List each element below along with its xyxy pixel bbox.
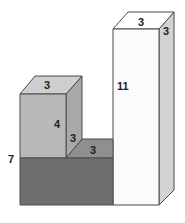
label-left-total-height: 7 — [8, 153, 14, 165]
tall-column-side — [159, 12, 174, 205]
label-tall-side-depth: 3 — [163, 25, 169, 37]
base-front — [20, 158, 113, 205]
tall-column-front — [113, 29, 159, 205]
label-tall-top-width: 3 — [138, 16, 144, 28]
label-small-cube-side-depth: 3 — [70, 132, 76, 144]
label-small-cube-height: 4 — [54, 118, 61, 130]
label-step-top-depth: 3 — [90, 144, 96, 156]
label-small-cube-top-width: 3 — [44, 79, 50, 91]
block-figure: 3 4 3 3 7 11 3 3 — [0, 0, 185, 223]
label-tall-height: 11 — [117, 80, 129, 92]
